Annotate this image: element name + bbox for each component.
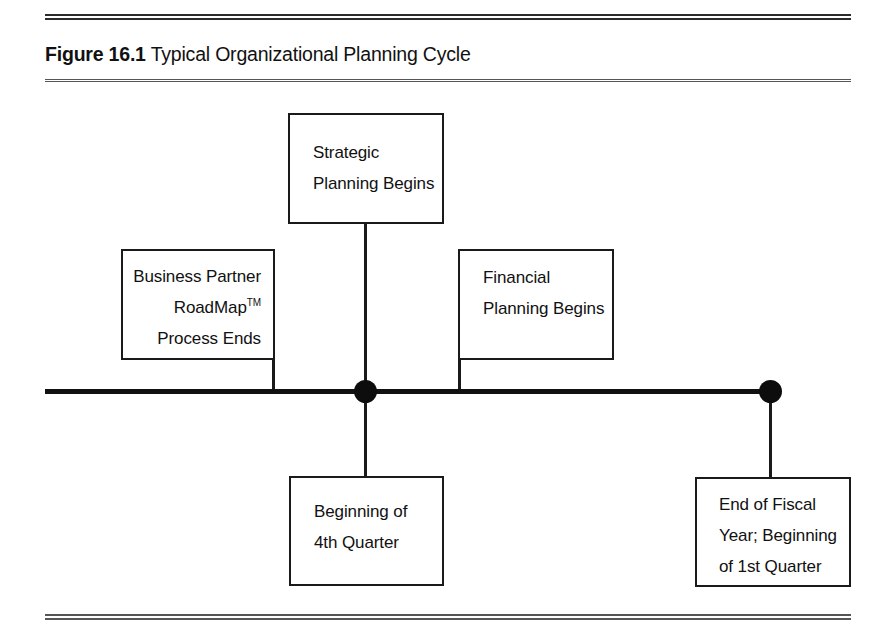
timeline-node-beginning-of-4th-quarter (354, 380, 377, 403)
box-business-partner-line-3: Process Ends (123, 323, 261, 354)
box-financial-planning-begins: Financial Planning Begins (458, 249, 614, 360)
connector-timeline-to-fiscal-year (769, 391, 772, 478)
box-strategic-line-2: Planning Begins (313, 168, 442, 199)
box-beginning-of-4th-quarter: Beginning of 4th Quarter (289, 476, 444, 586)
connector-financial-to-timeline (458, 358, 461, 392)
box-fiscal-year-line-3: of 1st Quarter (719, 551, 849, 582)
figure-bottom-rule (45, 614, 851, 620)
box-quarter4-line-1: Beginning of (314, 496, 442, 527)
box-fiscal-year-line-1: End of Fiscal (719, 489, 849, 520)
connector-strategic-to-timeline (364, 222, 367, 392)
box-quarter4-line-2: 4th Quarter (314, 527, 442, 558)
box-fiscal-year-line-2: Year; Beginning (719, 520, 849, 551)
trademark-icon: TM (247, 297, 261, 308)
box-business-partner-roadmap-process-ends: Business Partner RoadMapTM Process Ends (121, 249, 275, 360)
figure-caption-rule (45, 79, 851, 82)
figure-container: Figure 16.1 Typical Organizational Plann… (0, 0, 895, 638)
box-strategic-planning-begins: Strategic Planning Begins (288, 113, 444, 224)
box-strategic-line-1: Strategic (313, 137, 442, 168)
figure-caption-text: Typical Organizational Planning Cycle (151, 43, 471, 65)
box-end-of-fiscal-year: End of Fiscal Year; Beginning of 1st Qua… (695, 477, 851, 587)
connector-timeline-to-quarter4 (364, 391, 367, 477)
box-business-partner-roadmap-text: RoadMap (174, 298, 247, 317)
timeline-node-end-of-fiscal-year (759, 380, 782, 403)
figure-caption: Figure 16.1 Typical Organizational Plann… (45, 42, 471, 66)
connector-business-partner-to-timeline (272, 358, 275, 392)
box-financial-line-2: Planning Begins (483, 293, 612, 324)
timeline-axis (45, 389, 772, 394)
box-financial-line-1: Financial (483, 262, 612, 293)
box-business-partner-line-1: Business Partner (123, 261, 261, 292)
figure-caption-label: Figure 16.1 (45, 43, 146, 65)
box-business-partner-line-2: RoadMapTM (123, 292, 261, 323)
figure-top-rule (45, 14, 851, 20)
